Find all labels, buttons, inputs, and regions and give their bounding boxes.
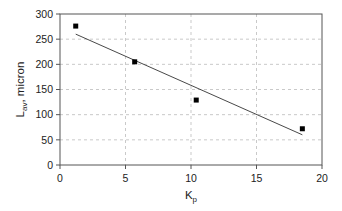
y-tick-label: 300 bbox=[35, 8, 53, 20]
x-axis-title: Kp bbox=[185, 189, 198, 204]
chart: 050100150200250300 05101520 Kp Lav, micr… bbox=[0, 0, 342, 211]
y-tick-label: 50 bbox=[41, 134, 53, 146]
y-tick-label: 250 bbox=[35, 33, 53, 45]
x-tick-label: 10 bbox=[185, 172, 197, 184]
y-tick-label: 150 bbox=[35, 83, 53, 95]
x-tick-label: 5 bbox=[123, 172, 129, 184]
y-axis-title-rest: , micron bbox=[14, 62, 26, 103]
x-tick-label: 20 bbox=[316, 172, 328, 184]
y-tick-label: 0 bbox=[47, 159, 53, 171]
y-axis-ticks: 050100150200250300 bbox=[35, 8, 60, 171]
data-point-marker bbox=[132, 59, 137, 64]
x-tick-label: 15 bbox=[251, 172, 263, 184]
data-points bbox=[73, 24, 305, 132]
y-axis-title-sub: av bbox=[20, 103, 29, 111]
x-tick-label: 0 bbox=[57, 172, 63, 184]
x-axis-ticks: 05101520 bbox=[57, 165, 328, 184]
fit-line-path bbox=[76, 34, 303, 135]
grid-lines bbox=[60, 14, 322, 165]
data-point-marker bbox=[300, 126, 305, 131]
data-point-marker bbox=[194, 98, 199, 103]
data-point-marker bbox=[73, 24, 78, 29]
y-tick-label: 200 bbox=[35, 58, 53, 70]
y-axis-title: Lav, micron bbox=[14, 62, 29, 118]
fit-line bbox=[76, 34, 303, 135]
y-tick-label: 100 bbox=[35, 108, 53, 120]
x-axis-title-sub: p bbox=[193, 195, 198, 204]
